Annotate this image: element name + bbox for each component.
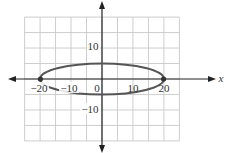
x-tick-label-10: 10	[128, 82, 140, 94]
x-axis-left-arrow-icon	[8, 76, 16, 82]
vertex-point-right	[161, 76, 166, 81]
x-tick-label-20: 20	[159, 82, 171, 94]
y-axis-down-arrow-icon	[99, 145, 105, 153]
x-tick-label-neg20: −20	[30, 82, 48, 94]
y-tick-label-10: 10	[88, 40, 100, 52]
x-tick-label-neg10: −10	[60, 82, 78, 94]
y-axis-up-arrow-icon	[99, 1, 105, 9]
coordinate-plane: −20 −10 0 10 20 10 −10 x	[0, 0, 225, 153]
y-tick-label-neg10: −10	[81, 103, 99, 115]
vertex-point-left	[38, 76, 43, 81]
x-axis-label: x	[218, 72, 224, 84]
y-axis	[99, 1, 105, 153]
x-tick-label-0: 0	[94, 82, 100, 94]
x-axis-right-arrow-icon	[208, 76, 216, 82]
